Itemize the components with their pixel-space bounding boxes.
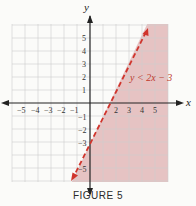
x-axis-label: x — [185, 96, 191, 108]
svg-text:1: 1 — [82, 86, 86, 95]
x-axis-arrow-left — [1, 100, 9, 106]
y-axis-label: y — [83, 1, 89, 13]
inequality-label: y < 2x − 3 — [129, 72, 172, 83]
svg-text:−5: −5 — [17, 106, 26, 115]
svg-text:−2: −2 — [78, 126, 87, 135]
svg-text:3: 3 — [82, 60, 86, 69]
svg-text:5: 5 — [153, 106, 157, 115]
y-axis-arrow-up — [87, 15, 93, 23]
inequality-graph: y x −5 −4 −3 −2 −1 2 3 4 5 5 4 3 2 1 −1 … — [0, 0, 196, 206]
svg-text:−5: −5 — [78, 165, 87, 174]
svg-text:4: 4 — [82, 47, 86, 56]
svg-text:3: 3 — [127, 106, 131, 115]
svg-text:−1: −1 — [78, 113, 87, 122]
svg-text:−3: −3 — [44, 106, 53, 115]
svg-text:−3: −3 — [78, 139, 87, 148]
svg-text:2: 2 — [82, 73, 86, 82]
svg-text:−4: −4 — [31, 106, 40, 115]
svg-text:5: 5 — [82, 34, 86, 43]
y-tick-labels: 5 4 3 2 1 −1 −2 −3 −5 — [78, 34, 87, 174]
svg-text:2: 2 — [114, 106, 118, 115]
figure-caption: FIGURE 5 — [0, 190, 196, 201]
svg-text:4: 4 — [140, 106, 144, 115]
x-axis-arrow-right — [176, 100, 184, 106]
svg-text:−2: −2 — [57, 106, 66, 115]
